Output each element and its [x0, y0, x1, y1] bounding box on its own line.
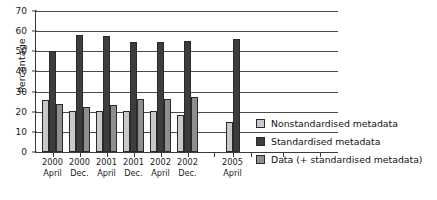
- legend-label-nonstandardised: Nonstandardised metadata: [271, 118, 398, 129]
- bar-group: [177, 11, 198, 152]
- bar: [137, 99, 144, 152]
- legend-swatch-icon-data: [256, 155, 265, 164]
- bar: [184, 41, 191, 152]
- y-tick-label: 70: [5, 6, 27, 16]
- x-axis-label-year: 2005: [213, 157, 253, 168]
- x-axis-label-year: 2002: [168, 157, 208, 168]
- x-axis-label: 2002Dec.: [168, 157, 208, 179]
- y-tick-label: 0: [5, 147, 27, 157]
- y-tick-label: 60: [5, 26, 27, 36]
- bar: [164, 99, 171, 152]
- legend-item-nonstandardised: Nonstandardised metadata: [256, 118, 422, 129]
- bar: [96, 111, 103, 152]
- bar: [69, 111, 76, 152]
- x-axis-label-month: Dec.: [168, 168, 208, 179]
- bar: [157, 42, 164, 152]
- bar-group: [226, 11, 240, 152]
- bar: [191, 97, 198, 152]
- bar: [130, 42, 137, 152]
- x-axis-label: 2005April: [213, 157, 253, 179]
- bar: [177, 115, 184, 152]
- bar: [233, 39, 240, 152]
- bar: [150, 111, 157, 152]
- bar: [56, 104, 63, 152]
- chart-legend: Nonstandardised metadata Standardised me…: [256, 118, 422, 165]
- legend-swatch-icon-standardised: [256, 137, 265, 146]
- legend-item-standardised: Standardised metadata: [256, 136, 422, 147]
- bar: [123, 111, 130, 152]
- x-axis-label-month: April: [213, 168, 253, 179]
- bar: [76, 35, 83, 152]
- y-tick-label: 40: [5, 66, 27, 76]
- bar: [42, 100, 49, 152]
- bar-chart: Percentage 010203040506070 2000April2000…: [0, 0, 437, 200]
- bar: [103, 36, 110, 152]
- bar-group: [69, 11, 90, 152]
- legend-item-data: Data (+ standardised metadata): [256, 154, 422, 165]
- bar: [49, 51, 56, 152]
- legend-label-data: Data (+ standardised metadata): [271, 154, 422, 165]
- bar-group: [123, 11, 144, 152]
- bar: [83, 107, 90, 152]
- legend-label-standardised: Standardised metadata: [271, 136, 380, 147]
- bar-group: [96, 11, 117, 152]
- bar-group: [42, 11, 63, 152]
- bar: [226, 122, 233, 152]
- y-tick-label: 50: [5, 46, 27, 56]
- legend-swatch-icon-nonstandardised: [256, 119, 265, 128]
- y-tick-mark: [32, 152, 37, 153]
- y-tick-label: 10: [5, 127, 27, 137]
- bar-group: [150, 11, 171, 152]
- y-tick-label: 20: [5, 107, 27, 117]
- bar: [110, 105, 117, 152]
- y-tick-label: 30: [5, 87, 27, 97]
